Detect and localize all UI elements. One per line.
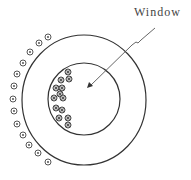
dot-in-circle-icon [10, 96, 16, 102]
cross-in-circle-icon [66, 76, 72, 82]
dot-in-circle-icon [20, 60, 26, 66]
dot-in-circle-icon [27, 49, 33, 55]
dot-in-circle-icon [36, 40, 42, 46]
cross-in-circle-icon [53, 85, 59, 91]
cross-in-circle-icon [60, 95, 66, 101]
cross-in-circle-icon [56, 115, 62, 121]
cross-in-circle-icon [65, 122, 71, 128]
cross-in-circle-icon [59, 85, 65, 91]
dot-in-circle-icon [11, 108, 17, 114]
dot-in-circle-icon [14, 121, 20, 127]
outer-conductors [10, 34, 51, 165]
cross-in-circle-icon [65, 69, 71, 75]
dot-in-circle-icon [20, 132, 26, 138]
arrowhead-icon [87, 82, 93, 88]
dot-in-circle-icon [45, 159, 51, 165]
inner-window-circle [48, 63, 120, 135]
outer-core-circle [22, 35, 146, 165]
dot-in-circle-icon [26, 142, 32, 148]
dot-in-circle-icon [35, 150, 41, 156]
window-label: Window [134, 5, 181, 20]
dot-in-circle-icon [45, 34, 51, 40]
toroid-window-diagram [0, 0, 191, 180]
cross-in-circle-icon [59, 107, 65, 113]
cross-in-circle-icon [53, 105, 59, 111]
cross-in-circle-icon [65, 115, 71, 121]
cross-in-circle-icon [51, 95, 57, 101]
dot-in-circle-icon [11, 83, 17, 89]
cross-in-circle-icon [58, 77, 64, 83]
dot-in-circle-icon [14, 71, 20, 77]
